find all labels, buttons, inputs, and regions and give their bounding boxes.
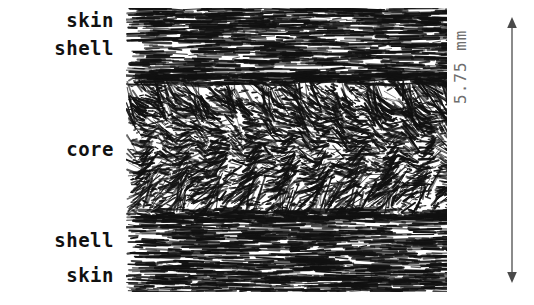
label-shell-bottom: shell [54, 231, 114, 250]
label-skin-top: skin [66, 11, 114, 30]
figure-root: skin shell core shell skin 5.75 mm [0, 0, 534, 305]
label-core: core [66, 140, 114, 159]
micrograph-panel [126, 8, 447, 292]
dimension-annotation: 5.75 mm [447, 0, 534, 305]
layer-label-column: skin shell core shell skin [0, 0, 126, 305]
micrograph-image [126, 8, 447, 292]
dimension-arrow-icon [505, 17, 519, 283]
label-skin-bottom: skin [66, 266, 114, 285]
label-shell-top: shell [54, 39, 114, 58]
dimension-label: 5.75 mm [451, 44, 470, 104]
